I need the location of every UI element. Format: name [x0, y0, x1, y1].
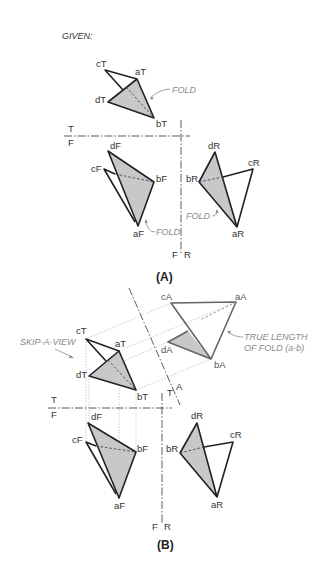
- b-label-aA: aA: [235, 291, 247, 302]
- b-label-bR: bR: [166, 443, 178, 454]
- a-fr-label-r: R: [184, 249, 191, 260]
- b-fold-line-fr: F R: [152, 393, 171, 532]
- b-tf-label-t: T: [51, 394, 57, 405]
- given-label: GIVEN:: [62, 31, 93, 41]
- a-front-view: dF cF bF aF FOLD: [91, 140, 181, 239]
- a-fold-line-tf: T F: [64, 123, 190, 148]
- a-tf-label-f: F: [68, 137, 74, 148]
- b-true-length-note-1: TRUE LENGTH: [244, 332, 308, 342]
- b-label-aR: aR: [211, 499, 223, 510]
- b-true-length-note-2: OF FOLD (a-b): [244, 343, 304, 353]
- a-label-bR: bR: [186, 173, 198, 184]
- b-fold-line-tf: T F: [48, 394, 172, 420]
- a-top-view: cT aT dT bT FOLD: [95, 58, 197, 129]
- caption-b: (B): [157, 538, 174, 552]
- a-top-shaded-face: [108, 79, 154, 118]
- b-aux-view: cA aA dA bA TRUE LENGTH OF FOLD (a-b): [161, 291, 308, 370]
- a-fold-line-fr: F R: [172, 120, 191, 260]
- b-label-cA: cA: [161, 291, 173, 302]
- descriptive-geometry-figure: GIVEN: cT aT dT bT FOLD T F F R dF cF bF…: [0, 0, 324, 565]
- b-label-dA: dA: [161, 344, 173, 355]
- b-label-bF: bF: [137, 443, 148, 454]
- b-fr-label-f: F: [152, 521, 158, 532]
- a-right-fold-note: FOLD: [186, 211, 211, 221]
- b-label-cT: cT: [76, 325, 87, 336]
- a-label-cR: cR: [248, 157, 260, 168]
- b-fr-label-r: R: [164, 521, 171, 532]
- a-top-fold-leader: [150, 89, 170, 98]
- b-label-dF: dF: [91, 411, 102, 422]
- a-label-bT: bT: [156, 118, 167, 129]
- a-label-dR: dR: [208, 140, 220, 151]
- b-label-cF: cF: [72, 434, 83, 445]
- b-label-dR: dR: [191, 410, 203, 421]
- a-label-aF: aF: [133, 228, 144, 239]
- a-label-aR: aR: [232, 228, 244, 239]
- a-front-fold-note: FOLD: [156, 227, 181, 237]
- a-label-cF: cF: [91, 163, 102, 174]
- b-ta-label-a: A: [176, 381, 183, 392]
- a-label-aT: aT: [135, 66, 146, 77]
- b-label-cR: cR: [230, 429, 242, 440]
- b-front-view: dF cF bF aF: [72, 411, 148, 511]
- a-label-dF: dF: [110, 140, 121, 151]
- b-ta-label-t: T: [167, 387, 173, 398]
- arrow-icon: [216, 209, 219, 213]
- a-front-fold-leader: [146, 220, 155, 232]
- b-tf-label-f: F: [51, 409, 57, 420]
- b-label-aF: aF: [114, 500, 125, 511]
- b-label-aT: aT: [115, 338, 126, 349]
- a-right-view: dR cR bR aR FOLD: [186, 140, 260, 239]
- a-tf-label-t: T: [68, 123, 74, 134]
- a-label-bF: bF: [156, 173, 167, 184]
- b-true-length-leader: [228, 332, 243, 337]
- a-label-dT: dT: [95, 94, 106, 105]
- b-right-view: dR cR bR aR: [166, 410, 242, 510]
- b-label-bA: bA: [214, 359, 226, 370]
- caption-a: (A): [156, 270, 173, 284]
- b-fold-line-ta: T A: [129, 288, 183, 405]
- arrow-icon: [69, 355, 74, 358]
- a-top-fold-note: FOLD: [172, 85, 197, 95]
- a-label-cT: cT: [96, 58, 107, 69]
- a-fr-label-f: F: [172, 249, 178, 260]
- arrow-icon: [145, 219, 148, 223]
- b-label-dT: dT: [76, 369, 87, 380]
- b-top-view: cT aT dT bT: [76, 325, 148, 402]
- b-aux-fold-hidden: [200, 302, 236, 320]
- b-skip-a-view-note: SKIP-A-VIEW: [20, 337, 77, 347]
- b-label-bT: bT: [137, 391, 148, 402]
- b-skip-leader: [55, 349, 72, 357]
